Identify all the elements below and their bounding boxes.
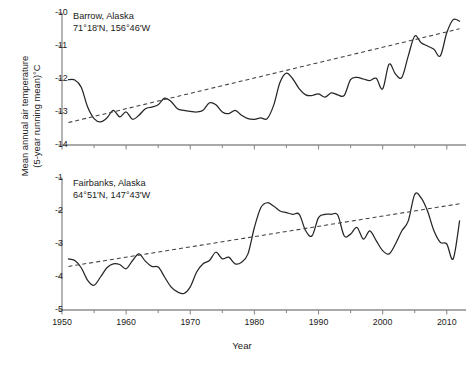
x-tick-label: 2010 <box>437 317 457 327</box>
trend-line <box>68 29 459 123</box>
x-tick-label: 1960 <box>116 317 136 327</box>
temperature-series-line <box>68 19 459 122</box>
plot-svg <box>0 0 474 369</box>
x-tick-label: 2000 <box>373 317 393 327</box>
x-axis-label: Year <box>212 340 272 351</box>
figure-container: Mean annual air temperature (5-year runn… <box>0 0 474 369</box>
x-tick-label: 1950 <box>52 317 72 327</box>
trend-line <box>68 204 459 267</box>
x-tick-label: 1980 <box>245 317 265 327</box>
x-tick-label: 1990 <box>309 317 329 327</box>
x-tick-label: 1970 <box>180 317 200 327</box>
panel-bottom <box>58 178 466 315</box>
temperature-series-line <box>68 193 459 294</box>
panel-top <box>58 13 466 150</box>
